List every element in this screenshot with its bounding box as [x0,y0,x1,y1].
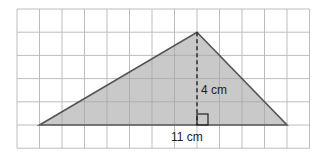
base-label: 11 cm [171,130,203,144]
height-label: 4 cm [201,83,227,97]
triangle-diagram: 4 cm 11 cm [0,0,328,159]
